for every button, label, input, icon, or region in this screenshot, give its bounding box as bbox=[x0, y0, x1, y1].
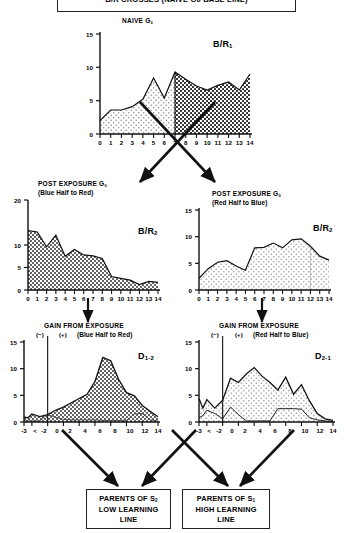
panel-post-rb-title: POST EXPOSURE G0 bbox=[212, 190, 281, 198]
arrows-to-boxes bbox=[0, 402, 351, 494]
svg-text:15: 15 bbox=[86, 31, 93, 38]
svg-text:15: 15 bbox=[185, 339, 192, 346]
parents-high-line3: LINE bbox=[217, 515, 234, 524]
chart-post-rb-plot bbox=[199, 239, 329, 290]
svg-text:10: 10 bbox=[10, 365, 17, 372]
svg-text:10: 10 bbox=[86, 64, 93, 71]
parents-low-line2: LOW LEARNING bbox=[99, 505, 159, 514]
panel-post-br-subtitle: (Blue Half to Red) bbox=[38, 189, 93, 196]
panel-naive-title: NAIVE G0 bbox=[122, 17, 153, 25]
svg-text:10: 10 bbox=[185, 365, 192, 372]
area-post-rb bbox=[199, 239, 329, 290]
svg-text:10: 10 bbox=[185, 233, 192, 240]
panel-gain-br-sign-neg: (−) bbox=[36, 331, 44, 338]
svg-text:5: 5 bbox=[189, 392, 193, 399]
parents-low-box: PARENTS OF S2 LOW LEARNING LINE bbox=[86, 489, 171, 529]
panel-post-br-code: B/R2 bbox=[138, 226, 158, 236]
top-title-box: B/R CROSSES (NAIVE G0 BASE LINE) bbox=[57, 0, 296, 12]
panel-gain-br-sign-pos: (+) bbox=[59, 331, 67, 338]
parents-high-line1: PARENTS OF S1 bbox=[197, 494, 256, 505]
parents-low-line1: PARENTS OF S2 bbox=[99, 494, 158, 505]
panel-gain-rb-sign-neg: (−) bbox=[211, 331, 219, 338]
panel-post-red-to-blue: POST EXPOSURE G0 (Red Half to Blue) B/R2… bbox=[175, 178, 351, 306]
arrow-gain-left-to-high bbox=[172, 430, 228, 486]
parents-low-line3: LINE bbox=[120, 515, 137, 524]
top-title-text: B/R CROSSES (NAIVE G0 BASE LINE) bbox=[105, 0, 247, 5]
svg-text:20: 20 bbox=[14, 197, 21, 204]
area-post-br bbox=[28, 231, 158, 290]
panel-naive-code: B/R1 bbox=[213, 39, 233, 49]
svg-text:5: 5 bbox=[14, 392, 18, 399]
parents-high-box: PARENTS OF S1 HIGH LEARNING LINE bbox=[182, 489, 270, 529]
svg-text:5: 5 bbox=[18, 264, 22, 271]
svg-text:15: 15 bbox=[185, 207, 192, 214]
svg-text:10: 10 bbox=[14, 242, 21, 249]
panel-gain-br-subtitle: (Blue Half to Red) bbox=[77, 331, 132, 338]
svg-text:15: 15 bbox=[10, 339, 17, 346]
parents-high-line2: HIGH LEARNING bbox=[195, 505, 256, 514]
panel-gain-rb-title: GAIN FROM EXPOSURE bbox=[219, 322, 299, 329]
panel-gain-br-code: D1-2 bbox=[138, 351, 154, 361]
arrow-gain-right-to-low bbox=[142, 430, 196, 486]
chart-post-br-svg: 20 10 5 0 0 1 2 3 4 5 bbox=[0, 178, 176, 306]
panel-gain-rb-code: D2-1 bbox=[315, 351, 331, 361]
chart-post-br-plot bbox=[28, 231, 158, 290]
panel-gain-br-title: GAIN FROM EXPOSURE bbox=[44, 322, 124, 329]
panel-post-rb-subtitle: (Red Half to Blue) bbox=[212, 199, 267, 206]
svg-text:0: 0 bbox=[18, 287, 22, 294]
arrow-gain-left-to-low bbox=[62, 430, 118, 486]
panel-post-rb-code: B/R2 bbox=[313, 223, 333, 233]
arrow-gain-right-to-high bbox=[240, 430, 294, 486]
panel-post-br-title: POST EXPOSURE G0 bbox=[38, 180, 107, 188]
svg-text:0: 0 bbox=[189, 287, 193, 294]
panel-gain-rb-subtitle: (Red Half to Blue) bbox=[253, 331, 308, 338]
figure-root: B/R CROSSES (NAIVE G0 BASE LINE) NAIVE G… bbox=[0, 0, 351, 533]
panel-post-blue-to-red: POST EXPOSURE G0 (Blue Half to Red) B/R2… bbox=[0, 178, 176, 306]
panel-gain-rb-sign-pos: (+) bbox=[235, 331, 243, 338]
svg-text:5: 5 bbox=[189, 260, 193, 267]
